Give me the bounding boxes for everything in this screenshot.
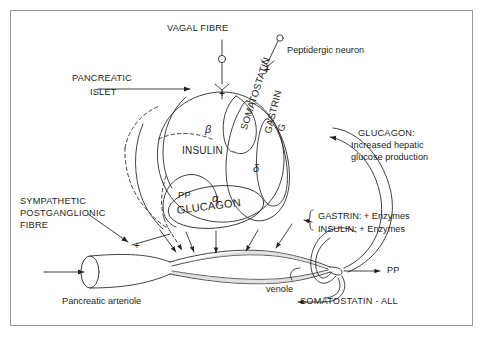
- pancreatic-arteriole-label: Pancreatic arteriole: [62, 296, 141, 306]
- sympathetic-label-line1: SYMPATHETIC: [20, 196, 86, 206]
- insulin-enzymes-label: INSULIN: + Enzymes: [318, 224, 405, 234]
- glucagon-output-line2: Increased hepatic: [351, 140, 424, 150]
- vagal-plus-sign: +: [219, 88, 225, 99]
- diagram-artwork: [0, 0, 484, 337]
- islet-capillary-vessel: [170, 250, 330, 284]
- pp-cell-symbol: PP: [178, 190, 191, 201]
- glucagon-output-title: GLUCAGON:: [358, 128, 415, 138]
- sympathetic-label-line2: POSTGANGLIONIC: [20, 208, 106, 218]
- pancreatic-arteriole: [44, 254, 170, 288]
- pancreatic-islet-label-line1: PANCREATIC: [72, 73, 132, 83]
- peptidergic-neuron-label: Peptidergic neuron: [287, 45, 364, 55]
- sympathetic-plus-sign: +: [134, 240, 140, 251]
- islet-inner-arc-left: [163, 97, 186, 188]
- gastrin-enzymes-label: GASTRIN: + Enzymes: [318, 211, 410, 221]
- dashed-feedback-arrow: [172, 234, 182, 250]
- venole-outline: [330, 267, 342, 275]
- pp-output-label: PP: [387, 265, 400, 275]
- figure-canvas: VAGAL FIBRE Peptidergic neuron PANCREATI…: [0, 0, 484, 337]
- venole-label: venole: [266, 284, 293, 294]
- gastrin-insulin-bracket: [307, 210, 313, 230]
- islet-dashed-boundaries: [125, 106, 214, 234]
- beta-cell-symbol: β: [205, 123, 211, 136]
- somatostatin-output-label: SOMATOSTATIN - ALL: [300, 296, 398, 306]
- vagal-fibre-label: VAGAL FIBRE: [167, 23, 228, 33]
- glucagon-output-line3: glucose production: [351, 152, 428, 162]
- sympathetic-label-line3: FIBRE: [20, 220, 48, 230]
- sympathetic-fibre-arrow: [88, 214, 170, 245]
- pancreatic-islet-label-line2: ISLET: [90, 87, 117, 97]
- delta-cell-symbol: δ: [253, 162, 259, 175]
- beta-cell-hormone: INSULIN: [182, 145, 223, 156]
- islet-to-vessel-arrows: [160, 224, 292, 253]
